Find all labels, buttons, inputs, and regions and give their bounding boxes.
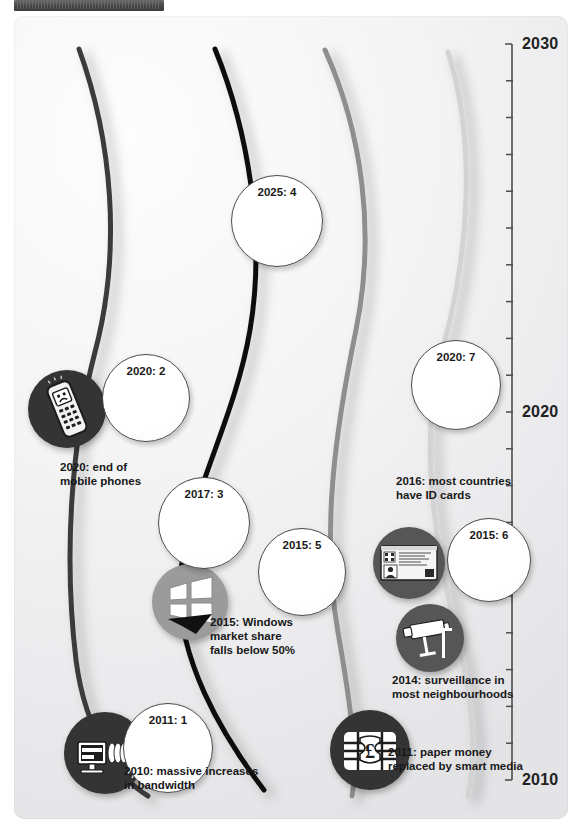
bubble-2015-5-label: 2015: 5 [259,539,345,551]
trend-curve-2 [180,49,264,790]
axis-label-2020: 2020 [522,403,558,421]
caption-bandwidth: 2010: massive increases in bandwidth [124,764,258,792]
bubble-2015-6-label: 2015: 6 [448,529,530,541]
bubble-2025-4[interactable]: 2025: 4 [231,175,323,267]
cctv-camera-icon [396,604,464,672]
bubble-2020-7-label: 2020: 7 [412,351,500,363]
mobile-phone-icon [28,370,106,448]
infographic-panel: 2030 2020 2010 [14,16,568,819]
trend-curve-3 [325,50,365,796]
bubble-2011-1-label: 2011: 1 [124,714,212,726]
event-surveillance-icon-disc[interactable] [396,604,464,672]
bubble-2017-3-label: 2017: 3 [159,488,249,500]
bubble-2015-5[interactable]: 2015: 5 [258,528,346,616]
bubble-2015-6[interactable]: 2015: 6 [447,518,531,602]
year-axis-line [505,44,513,780]
bubble-2017-3[interactable]: 2017: 3 [158,477,250,569]
event-id-card-icon-disc[interactable] [373,527,445,599]
caption-smart-media-money: 2011: paper money replaced by smart medi… [388,745,523,773]
event-mobile-phones-icon-disc[interactable] [28,370,106,448]
timeline-infographic: 2030 2020 2010 [0,0,582,833]
canvas-stage: 2030 2020 2010 [14,16,568,819]
title-bar-texture [17,2,161,9]
caption-windows-market-share: 2015: Windows market share falls below 5… [210,615,295,657]
axis-label-2030: 2030 [522,35,558,53]
axis-label-2010: 2010 [522,771,558,789]
caption-id-cards: 2016: most countries have ID cards [396,474,511,502]
caption-surveillance: 2014: surveillance in most neighbourhood… [392,673,513,701]
id-card-icon [373,527,445,599]
bubble-2025-4-label: 2025: 4 [232,186,322,198]
svg-text:£: £ [365,740,375,762]
caption-mobile-phones: 2020: end of mobile phones [60,460,141,488]
bubble-2020-7[interactable]: 2020: 7 [411,340,501,430]
title-bar [14,0,164,11]
bubble-2020-2[interactable]: 2020: 2 [102,354,190,442]
bubble-2020-2-label: 2020: 2 [103,365,189,377]
